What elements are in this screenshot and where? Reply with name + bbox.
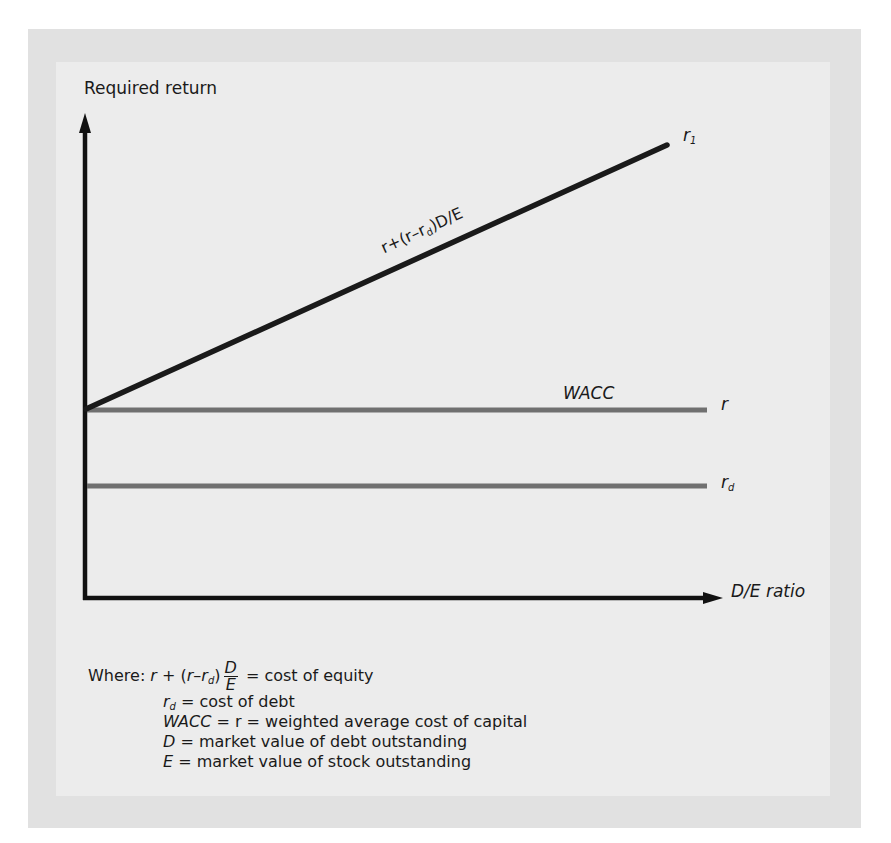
legend-row-cost-of-debt: rd = cost of debt	[163, 694, 295, 712]
legend-debt-desc: = market value of debt outstanding	[175, 732, 467, 751]
legend-row-debt: D = market value of debt outstanding	[163, 734, 467, 750]
legend-row-cost-of-equity: Where: r + (r–rd)DE = cost of equity	[88, 660, 374, 693]
legend-e-var: E	[163, 752, 173, 771]
rd-label: rd	[721, 474, 734, 493]
y-axis-label: Required return	[84, 80, 217, 97]
legend-row-equity: E = market value of stock outstanding	[163, 754, 471, 770]
legend-cost-of-equity-desc: = cost of equity	[241, 666, 374, 685]
legend-wacc-var: WACC	[163, 712, 211, 731]
legend-d-var: D	[163, 732, 175, 751]
x-axis-arrow-icon	[703, 592, 723, 604]
legend-rd-var: r	[163, 692, 170, 711]
fraction-denominator: E	[224, 677, 238, 693]
legend-plus: + (	[157, 666, 187, 685]
legend-paren: )	[214, 666, 220, 685]
y-axis-arrow-icon	[79, 113, 91, 133]
r1-label: r1	[683, 127, 696, 146]
legend-cost-of-debt-desc: = cost of debt	[176, 692, 295, 711]
legend-wacc-desc: = r = weighted average cost of capital	[211, 712, 527, 731]
x-axis-label: D/E ratio	[731, 583, 805, 600]
r1-label-sub: 1	[690, 135, 696, 146]
rd-label-main: r	[721, 472, 728, 492]
legend-where: Where:	[88, 666, 145, 685]
r1-label-main: r	[683, 125, 690, 145]
r-label: r	[721, 396, 728, 413]
wacc-label: WACC	[563, 385, 614, 402]
cost-of-equity-line	[86, 145, 667, 409]
legend-r3: r	[201, 666, 208, 685]
rd-label-sub: d	[728, 482, 734, 493]
legend-row-wacc: WACC = r = weighted average cost of capi…	[163, 714, 527, 730]
legend-fraction: DE	[224, 660, 238, 693]
legend-stock-desc: = market value of stock outstanding	[173, 752, 471, 771]
legend-r: r	[150, 666, 157, 685]
